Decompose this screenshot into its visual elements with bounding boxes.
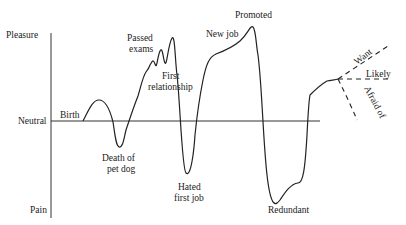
first-relationship-label-2: relationship: [148, 82, 193, 92]
afraid-label: Afraid of: [362, 84, 388, 120]
new-job-label: New job: [206, 29, 239, 39]
afraid-path: [338, 79, 357, 120]
want-label: Want: [352, 46, 374, 66]
birth-label: Birth: [60, 110, 80, 120]
passed-exams-label-1: Passed: [127, 33, 153, 43]
death-pet-label-1: Death of: [102, 153, 136, 163]
life-line: [83, 27, 338, 204]
death-pet-label-2: pet dog: [107, 164, 135, 174]
promoted-label: Promoted: [235, 10, 272, 20]
hated-job-label-2: first job: [174, 193, 204, 203]
life-line-diagram: Pleasure Neutral Pain Birth Death of pet…: [0, 0, 406, 225]
first-relationship-label-1: First: [162, 71, 180, 81]
pain-label: Pain: [30, 205, 47, 215]
likely-label: Likely: [366, 69, 391, 79]
redundant-label: Redundant: [268, 205, 310, 215]
pleasure-label: Pleasure: [6, 30, 38, 40]
passed-exams-label-2: exams: [129, 44, 154, 54]
neutral-label: Neutral: [18, 116, 47, 126]
hated-job-label-1: Hated: [178, 182, 201, 192]
